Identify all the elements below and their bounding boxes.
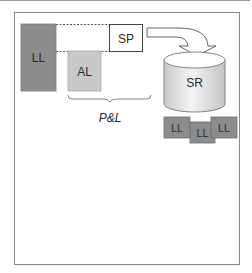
pl-brace: P&L [68, 95, 151, 125]
ll-box-label: LL [171, 122, 183, 134]
al-bar-label: AL [77, 65, 92, 79]
ll-box-right: LL [211, 117, 237, 138]
ll-box-label: LL [196, 127, 208, 139]
sp-box-label: SP [118, 32, 134, 46]
ll-box-group: LL LL LL [164, 117, 237, 143]
sr-cylinder-label: SR [186, 76, 203, 90]
ll-bar-label: LL [32, 51, 46, 65]
ll-box-label: LL [218, 122, 230, 134]
ll-box-left: LL [164, 117, 190, 138]
pl-label: P&L [99, 111, 122, 125]
diagram-canvas: LL AL SP P&L SR LL LL [0, 0, 252, 273]
sp-box: SP [110, 25, 143, 52]
al-bar: AL [68, 51, 101, 91]
sr-cylinder: SR [164, 52, 225, 112]
ll-bar: LL [21, 24, 56, 91]
dashed-connectors [56, 25, 109, 52]
curved-arrow-icon [147, 28, 216, 56]
